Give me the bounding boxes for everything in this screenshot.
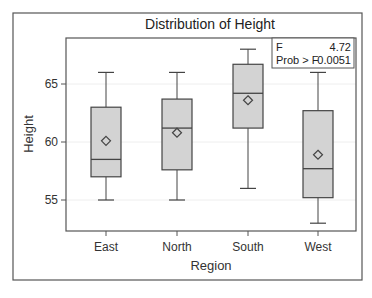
stats-f-value: 4.72 xyxy=(330,41,351,53)
y-tick-label: 65 xyxy=(45,77,59,91)
y-axis-label: Height xyxy=(21,115,36,153)
x-axis-label: Region xyxy=(190,258,231,273)
x-tick-label: East xyxy=(94,240,119,254)
stats-prob-value: 0.0051 xyxy=(317,54,351,66)
stats-prob-label: Prob > F xyxy=(276,54,319,66)
box-plot-chart: Distribution of Height 556065 Height Eas… xyxy=(0,0,372,298)
x-tick-label: West xyxy=(304,240,332,254)
stats-f-label: F xyxy=(276,41,283,53)
x-tick-label: South xyxy=(232,240,263,254)
chart-title: Distribution of Height xyxy=(145,16,275,32)
y-tick-label: 55 xyxy=(45,193,59,207)
y-tick-label: 60 xyxy=(45,135,59,149)
stats-inset: F 4.72 Prob > F 0.0051 xyxy=(272,38,354,68)
x-tick-label: North xyxy=(162,240,191,254)
